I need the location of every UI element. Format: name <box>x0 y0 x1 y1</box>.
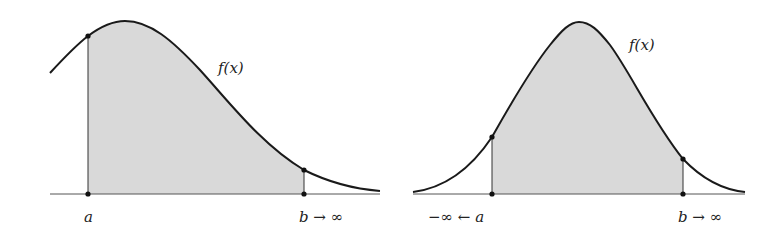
left-upper-label: b → ∞ <box>299 208 343 226</box>
right-a-axis-point <box>489 191 494 196</box>
left-a-curve-point <box>85 33 90 38</box>
right-upper-label: b → ∞ <box>678 208 722 226</box>
right-a-curve-point <box>489 134 494 139</box>
right-lower-label: −∞ ← a <box>428 208 484 226</box>
left-b-curve-point <box>301 167 306 172</box>
left-a-axis-point <box>85 191 90 196</box>
right-figure: f(x) −∞ ← a b → ∞ <box>413 22 745 226</box>
left-function-label: f(x) <box>217 59 244 77</box>
left-figure: f(x) a b → ∞ <box>50 21 380 226</box>
right-function-label: f(x) <box>628 36 655 54</box>
right-b-curve-point <box>680 156 685 161</box>
left-shaded-area <box>88 21 304 194</box>
figure-canvas: f(x) a b → ∞ f(x) −∞ ← a b → ∞ <box>0 0 783 240</box>
left-b-axis-point <box>301 191 306 196</box>
left-lower-label: a <box>84 208 93 226</box>
right-b-axis-point <box>680 191 685 196</box>
